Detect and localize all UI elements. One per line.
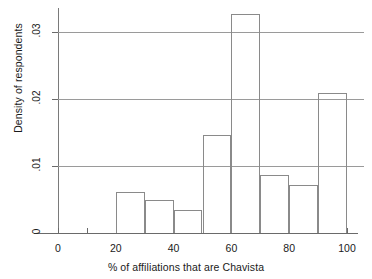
histogram-bar	[145, 200, 174, 233]
x-tick-major	[347, 228, 348, 234]
histogram-bar	[203, 135, 232, 233]
x-axis-spine	[34, 233, 358, 234]
histogram-bar	[318, 93, 347, 233]
x-tick-label: 20	[96, 242, 136, 254]
x-tick-label: 100	[327, 242, 367, 254]
histogram-figure: Density of respondents 0.01.02.03 020406…	[0, 0, 372, 279]
x-tick-label: 60	[211, 242, 251, 254]
histogram-bar	[289, 185, 318, 233]
x-tick-label: 40	[154, 242, 194, 254]
y-tick-label: .02	[31, 84, 42, 112]
y-axis-title: Density of respondents	[12, 0, 24, 158]
y-tick-label: .03	[31, 17, 42, 45]
y-tick-label: .01	[31, 151, 42, 179]
histogram-bar	[174, 210, 203, 233]
x-tick-label: 0	[38, 242, 78, 254]
histogram-bar	[116, 192, 145, 233]
histogram-bar	[231, 14, 260, 233]
histogram-bar	[260, 175, 289, 233]
x-tick-label: 80	[269, 242, 309, 254]
x-axis-title: % of affiliations that are Chavista	[0, 261, 372, 273]
